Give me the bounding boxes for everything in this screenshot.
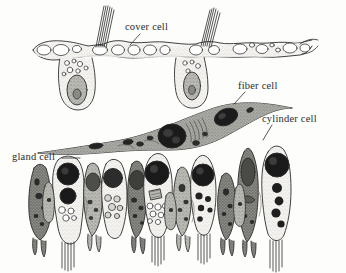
- label-gland-cell: gland cell: [12, 151, 55, 162]
- label-cylinder-cell: cylinder cell: [262, 113, 317, 124]
- fiber-cell: [38, 103, 292, 155]
- leader-fiber: [234, 92, 245, 104]
- label-fiber-cell: fiber cell: [238, 80, 278, 91]
- cover-cell-layer: [33, 6, 318, 110]
- illustration-canvas: [0, 0, 346, 273]
- histology-figure: cover cell fiber cell cylinder cell glan…: [0, 0, 346, 273]
- columnar-cell-layer: [29, 146, 291, 272]
- label-cover-cell: cover cell: [125, 21, 168, 32]
- leader-cylinder: [263, 125, 272, 140]
